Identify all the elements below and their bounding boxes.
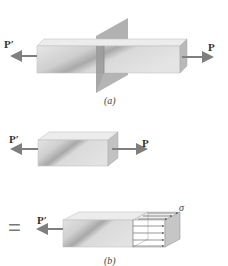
equals-sign: =	[8, 217, 21, 239]
force-label-p-b1: P	[142, 138, 149, 149]
force-label-p-a: P	[208, 42, 215, 53]
bar-a-front	[37, 46, 180, 73]
bar-b1-front	[38, 140, 108, 166]
diagram-canvas	[0, 0, 228, 266]
bar-b1-top	[38, 132, 118, 140]
stress-label-sigma: σ	[179, 203, 184, 213]
caption-a: (a)	[104, 96, 116, 106]
bar-a-top	[37, 39, 187, 46]
force-label-p-prime-b2: P′	[37, 215, 47, 226]
cutting-plane-lower	[96, 73, 128, 93]
figure-a	[12, 18, 212, 93]
force-label-p-prime-b1: P′	[9, 134, 19, 145]
caption-b: (b)	[104, 256, 116, 266]
force-label-p-prime-a: P′	[4, 39, 14, 50]
stress-region-front	[133, 220, 165, 247]
bar-b2-front	[63, 220, 133, 247]
figure-b-stress	[38, 212, 180, 247]
figure-b-freebody	[12, 132, 146, 166]
